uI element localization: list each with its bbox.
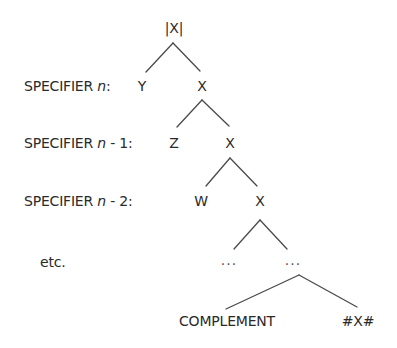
branch-x1-to-z	[177, 100, 202, 127]
specifier-n-minus-2-label: SPECIFIER n - 2:	[24, 193, 133, 209]
left-ellipsis-node: ...	[221, 252, 237, 268]
head-node-x-level-1: X	[197, 78, 206, 94]
branch-x3-to-right-dots	[260, 220, 287, 249]
specifier-node-w: W	[194, 193, 208, 209]
branch-x2-to-w	[206, 158, 230, 186]
head-node-x-level-2: X	[225, 135, 234, 151]
branch-x2-to-x3	[230, 158, 257, 186]
root-node-label: |X|	[165, 20, 183, 36]
branch-dots-to-complement	[226, 275, 299, 309]
head-terminal-node: #X#	[342, 313, 374, 329]
branch-x3-to-left-dots	[234, 220, 260, 249]
branch-root-to-y	[146, 43, 173, 72]
specifier-n-label: SPECIFIER n:	[24, 78, 111, 94]
branch-dots-to-head	[299, 275, 357, 307]
specifier-node-z: Z	[169, 135, 178, 151]
specifier-node-y: Y	[138, 78, 146, 94]
etc-label: etc.	[40, 254, 65, 270]
head-node-x-level-3: X	[255, 193, 264, 209]
specifier-n-minus-1-label: SPECIFIER n - 1:	[24, 135, 133, 151]
branch-root-to-x1	[173, 43, 200, 71]
x-bar-tree-diagram: |X| SPECIFIER n: Y X SPECIFIER n - 1: Z …	[0, 0, 397, 348]
branch-x1-to-x2	[202, 100, 229, 126]
tree-branches	[0, 0, 397, 348]
right-ellipsis-node: ...	[285, 252, 301, 268]
complement-node: COMPLEMENT	[179, 313, 275, 329]
